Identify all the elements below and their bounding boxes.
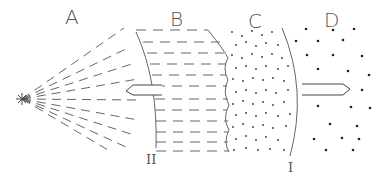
- diagram: A B C D II I: [0, 0, 383, 178]
- region-a-rays: [22, 28, 140, 150]
- left-arrow-icon: [126, 85, 162, 95]
- region-c-dots: [231, 30, 291, 151]
- right-arrow-icon: [302, 84, 350, 95]
- label-boundary-i: I: [288, 161, 293, 174]
- source-star-icon: [16, 93, 28, 105]
- label-region-c: C: [248, 11, 262, 31]
- boundary-b-c: [208, 30, 229, 152]
- label-region-a: A: [65, 7, 79, 27]
- label-region-d: D: [324, 10, 339, 30]
- label-region-b: B: [170, 9, 183, 29]
- label-boundary-ii: II: [146, 153, 156, 166]
- boundary-i: [282, 28, 297, 156]
